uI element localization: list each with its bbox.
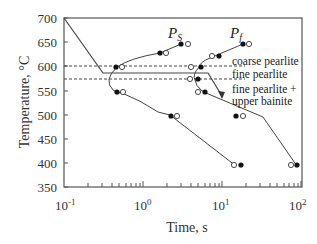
ps-filled-marker — [114, 89, 119, 94]
ps-open-marker — [119, 64, 124, 69]
ps-filled-marker — [157, 50, 162, 55]
pf-open-marker — [195, 89, 200, 94]
x-axis-title: Time, s — [166, 220, 208, 235]
y-tick-labels: 700 650 600 550 500 450 400 350 — [38, 11, 58, 195]
pf-open-marker — [187, 76, 192, 81]
pf-open-marker — [288, 162, 293, 167]
cooling-arrow-head — [218, 91, 225, 99]
x-tick-10: 101 — [212, 197, 230, 213]
pf-filled-marker — [202, 89, 207, 94]
pf-filled-marker — [294, 162, 299, 167]
x-tick-1: 100 — [134, 197, 152, 213]
y-tick-350: 350 — [38, 180, 58, 195]
y-tick-700: 700 — [38, 11, 58, 26]
pf-open-marker — [246, 41, 251, 46]
ps-label: PS — [167, 25, 182, 43]
ps-filled-marker — [238, 162, 243, 167]
pf-filled-marker — [198, 64, 203, 69]
y-axis-title: Temperature, °C — [17, 56, 32, 148]
pf-filled-marker — [233, 113, 238, 118]
region-fine-pearlite-bainite-line2: upper bainite — [232, 95, 292, 108]
region-coarse-pearlite: coarse pearlite — [232, 55, 299, 68]
y-tick-450: 450 — [38, 132, 58, 147]
pf-filled-marker — [216, 53, 221, 58]
x-tick-100: 102 — [289, 197, 307, 213]
ps-markers — [113, 41, 243, 167]
ps-filled-marker — [113, 64, 118, 69]
ps-open-marker — [231, 162, 236, 167]
ps-open-marker — [174, 113, 179, 118]
ps-open-marker — [163, 50, 168, 55]
pf-open-marker — [209, 53, 214, 58]
x-tick-0.1: 10-1 — [55, 197, 76, 213]
y-tick-400: 400 — [38, 156, 58, 171]
ttt-chart: 700 650 600 550 500 450 400 350 — [0, 0, 317, 244]
y-tick-500: 500 — [38, 108, 58, 123]
y-tick-600: 600 — [38, 59, 58, 74]
region-fine-pearlite: fine pearlite — [232, 68, 287, 81]
y-tick-550: 550 — [38, 84, 58, 99]
ps-open-marker — [120, 89, 125, 94]
ps-open-marker — [185, 41, 190, 46]
x-tick-labels: 10-1 100 101 102 — [55, 197, 307, 213]
x-axis — [88, 181, 301, 187]
y-tick-650: 650 — [38, 35, 58, 50]
ps-filled-marker — [168, 113, 173, 118]
pf-label: Pf — [229, 25, 243, 43]
pf-open-marker — [188, 64, 193, 69]
ps-curve — [109, 44, 236, 166]
pf-open-marker — [240, 113, 245, 118]
pf-filled-marker — [195, 76, 200, 81]
